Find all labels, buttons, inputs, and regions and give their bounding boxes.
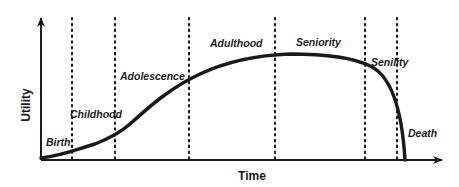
stage-label-birth: Birth bbox=[46, 136, 71, 148]
x-axis-label: Time bbox=[238, 169, 266, 183]
utility-curve bbox=[41, 54, 405, 160]
stage-label-senility: Senility bbox=[371, 56, 410, 68]
life-utility-diagram: Utility Time Birth Childhood Adolescence… bbox=[0, 0, 459, 187]
stage-label-death: Death bbox=[408, 127, 437, 139]
stage-label-seniority: Seniority bbox=[296, 36, 342, 48]
stage-label-adulthood: Adulthood bbox=[209, 37, 263, 49]
y-axis-label: Utility bbox=[19, 88, 33, 122]
stage-label-childhood: Childhood bbox=[70, 108, 122, 120]
stage-label-adolescence: Adolescence bbox=[119, 70, 185, 82]
stage-labels: Birth Childhood Adolescence Adulthood Se… bbox=[46, 36, 437, 148]
